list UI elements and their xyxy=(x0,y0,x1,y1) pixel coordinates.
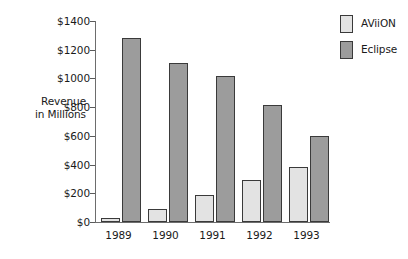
y-axis-tick-label: $1000 xyxy=(57,71,90,85)
y-axis-tick-label: $1200 xyxy=(57,43,90,57)
bar-aviion-1989[interactable] xyxy=(101,218,120,222)
bar-aviion-1993[interactable] xyxy=(289,167,308,222)
legend-swatch-icon-eclipse xyxy=(340,41,353,59)
chart-legend: AViiON Eclipse xyxy=(340,14,408,66)
legend-item-eclipse[interactable]: Eclipse xyxy=(340,40,408,66)
y-axis-tick-label: $0 xyxy=(77,215,90,229)
legend-swatch-icon-aviion xyxy=(340,15,353,33)
bar-aviion-1990[interactable] xyxy=(148,209,167,222)
x-axis-tick-label-1993: 1993 xyxy=(283,229,330,242)
legend-label-eclipse: Eclipse xyxy=(361,43,397,56)
bar-aviion-1992[interactable] xyxy=(242,180,261,222)
y-axis-tick-labels: $0$200$400$600$800$1000$1200$1400 xyxy=(44,0,90,259)
legend-label-aviion: AViiON xyxy=(361,17,396,30)
bar-eclipse-1993[interactable] xyxy=(310,136,329,222)
bar-aviion-1991[interactable] xyxy=(195,195,214,222)
bar-eclipse-1991[interactable] xyxy=(216,76,235,222)
y-axis-tick-label: $800 xyxy=(64,100,90,114)
bar-group xyxy=(242,21,282,222)
y-axis-tick-label: $600 xyxy=(64,129,90,143)
x-axis-tick-label-1992: 1992 xyxy=(236,229,283,242)
bar-group xyxy=(289,21,329,222)
x-axis-tick-label-1990: 1990 xyxy=(142,229,189,242)
y-axis-tick-label: $200 xyxy=(64,186,90,200)
bar-eclipse-1989[interactable] xyxy=(122,38,141,222)
plot-area xyxy=(95,21,330,222)
y-axis-tick-label: $400 xyxy=(64,158,90,172)
x-axis-tick-label-1991: 1991 xyxy=(189,229,236,242)
bar-eclipse-1990[interactable] xyxy=(169,63,188,222)
bar-group xyxy=(195,21,235,222)
legend-item-aviion[interactable]: AViiON xyxy=(340,14,408,40)
bar-eclipse-1992[interactable] xyxy=(263,105,282,222)
revenue-bar-chart: Revenue in Millions $0$200$400$600$800$1… xyxy=(0,0,408,259)
y-axis-tick-label: $1400 xyxy=(57,14,90,28)
x-axis-tick-label-1989: 1989 xyxy=(95,229,142,242)
x-axis-line xyxy=(95,222,330,223)
bar-group xyxy=(101,21,141,222)
bar-group xyxy=(148,21,188,222)
